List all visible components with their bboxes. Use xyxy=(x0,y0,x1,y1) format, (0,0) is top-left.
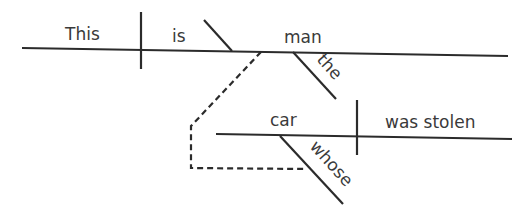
word-relative-subject: car xyxy=(270,110,297,130)
word-relative-verb: was stolen xyxy=(385,112,475,132)
relative-baseline xyxy=(216,134,512,139)
word-verb: is xyxy=(172,26,186,46)
main-baseline xyxy=(22,48,508,56)
word-subject: This xyxy=(64,24,100,44)
complement-slash xyxy=(204,20,232,51)
diagram-canvas: This is man the car was stolen whose xyxy=(0,0,531,223)
sentence-diagram: This is man the car was stolen whose xyxy=(0,0,531,223)
word-predicate-nominative: man xyxy=(284,27,322,47)
word-modifier-whose: whose xyxy=(306,136,357,190)
